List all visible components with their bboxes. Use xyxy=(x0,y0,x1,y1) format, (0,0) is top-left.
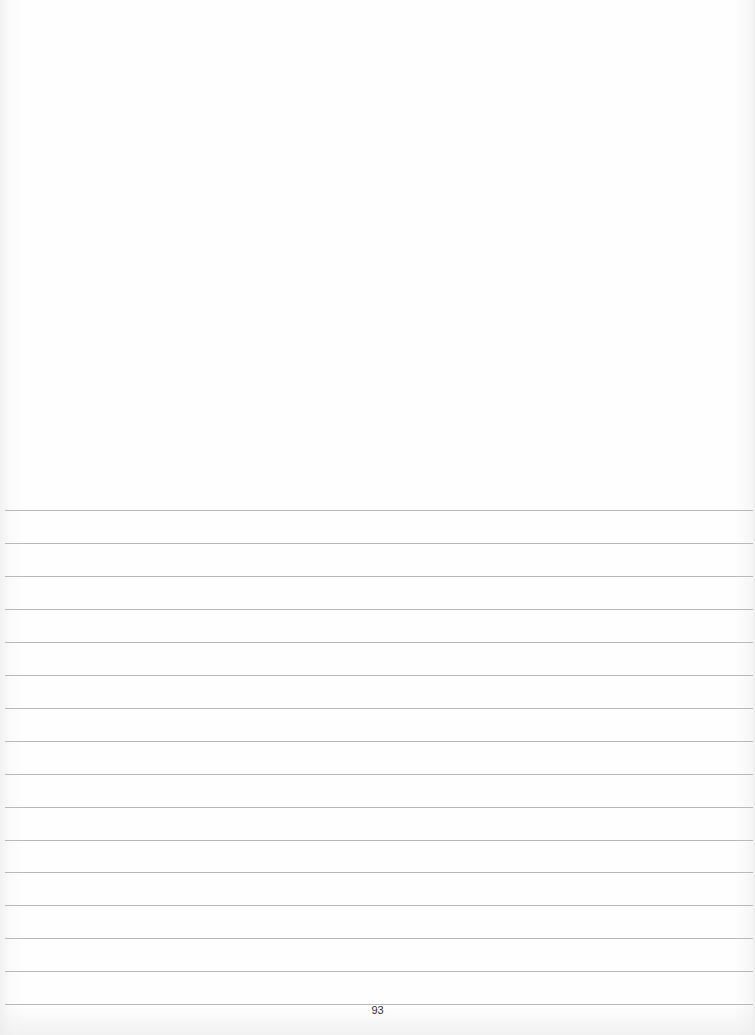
ruled-line xyxy=(5,741,753,742)
notebook-page: 93 xyxy=(0,0,755,1035)
ruled-line xyxy=(5,774,753,775)
ruled-line xyxy=(5,609,753,610)
ruled-line xyxy=(5,807,753,808)
ruled-line xyxy=(5,840,753,841)
ruled-lines xyxy=(5,0,753,1035)
ruled-line xyxy=(5,938,753,939)
ruled-line xyxy=(5,872,753,873)
ruled-line xyxy=(5,510,753,511)
ruled-line xyxy=(5,675,753,676)
ruled-line xyxy=(5,543,753,544)
page-number: 93 xyxy=(0,1004,755,1017)
ruled-line xyxy=(5,576,753,577)
ruled-line xyxy=(5,642,753,643)
ruled-line xyxy=(5,905,753,906)
ruled-line xyxy=(5,971,753,972)
ruled-line xyxy=(5,708,753,709)
